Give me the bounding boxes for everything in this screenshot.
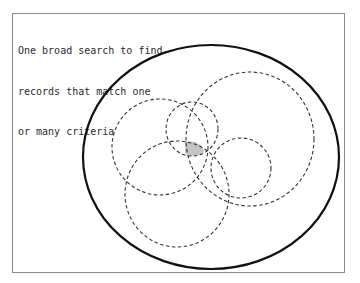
criterion-circle-e (211, 138, 271, 198)
criterion-circle-d (125, 141, 229, 247)
outer-set-ellipse (83, 45, 339, 269)
venn-diagram (0, 0, 360, 283)
